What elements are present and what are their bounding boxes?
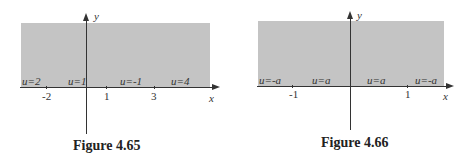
tick-mark [154,86,155,89]
y-axis-arrow-icon [83,13,89,21]
boundary-label: u=2 [22,76,40,87]
tick-mark [46,86,47,89]
tick-label: -2 [42,91,51,102]
y-axis-arrow-icon [347,11,353,19]
boundary-label: u=a [312,75,330,86]
tick-label: -1 [289,89,298,100]
y-axis-label: y [94,11,99,22]
tick-label: 1 [405,89,411,100]
figure-caption: Figure 4.65 [73,139,140,153]
y-axis-label: y [357,10,362,21]
x-axis-label: x [209,93,214,104]
boundary-label: u=a [367,75,385,86]
x-axis [257,86,448,87]
boundary-label: u=-a [415,75,437,86]
x-axis [20,87,214,88]
boundary-label: u=1 [68,76,86,87]
boundary-label: u=-a [259,75,281,86]
figure-4-66: y x u=-a u=a u=a u=-a -1 1 Figure 4.66 [234,0,469,160]
x-axis-arrow-icon [212,84,220,90]
x-axis-arrow-icon [446,83,454,89]
y-axis [350,16,351,130]
figure-caption: Figure 4.66 [321,136,388,150]
tick-label: 1 [104,91,110,102]
tick-mark [106,86,107,89]
x-axis-label: x [443,91,448,102]
boundary-label: u=-1 [120,76,142,87]
boundary-label: u=4 [171,76,189,87]
tick-label: 3 [151,91,157,102]
figure-4-65: y x u=2 u=1 u=-1 u=4 -2 1 3 Figure 4.65 [0,0,234,160]
